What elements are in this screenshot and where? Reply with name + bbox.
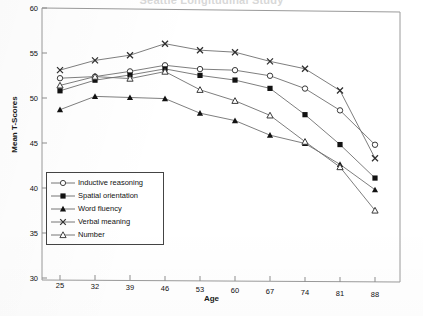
data-point-marker bbox=[232, 77, 237, 82]
legend-label: Number bbox=[76, 230, 105, 239]
data-point-marker bbox=[302, 112, 307, 117]
data-point-marker bbox=[302, 86, 307, 91]
filled-triangle-marker-icon bbox=[50, 203, 76, 215]
open-circle-marker-icon bbox=[50, 177, 76, 189]
series-line bbox=[60, 44, 375, 159]
legend-item-verbal-meaning: Verbal meaning bbox=[50, 215, 159, 228]
chart-figure: Seattle Longitudinal Study Mean T-Scores… bbox=[0, 0, 423, 316]
data-point-marker bbox=[197, 87, 203, 93]
filled-square-marker-icon bbox=[50, 190, 76, 202]
data-point-marker bbox=[197, 73, 202, 78]
data-series bbox=[57, 41, 378, 162]
cross-x-marker-icon bbox=[50, 216, 76, 228]
series-line bbox=[60, 69, 375, 178]
legend-label: Word fluency bbox=[76, 204, 122, 213]
data-point-marker bbox=[267, 73, 272, 78]
data-point-marker bbox=[302, 139, 308, 145]
open-triangle-marker-icon bbox=[50, 229, 76, 241]
data-point-marker bbox=[267, 112, 273, 118]
data-point-marker bbox=[57, 107, 63, 113]
data-point-marker bbox=[372, 142, 377, 147]
plot-area bbox=[0, 0, 423, 316]
data-point-marker bbox=[372, 155, 378, 161]
legend-item-word-fluency: Word fluency bbox=[50, 202, 159, 215]
data-point-marker bbox=[197, 110, 203, 116]
legend-item-number: Number bbox=[50, 228, 159, 241]
data-point-marker bbox=[57, 76, 62, 81]
data-point-marker bbox=[267, 132, 273, 138]
data-point-marker bbox=[267, 86, 272, 91]
legend-item-inductive-reasoning: Inductive reasoning bbox=[50, 176, 159, 189]
plot-top-border bbox=[42, 8, 400, 12]
chart-legend: Inductive reasoning Spatial orientation … bbox=[46, 172, 164, 245]
data-point-marker bbox=[337, 142, 342, 147]
x-axis-line bbox=[42, 280, 400, 282]
legend-label: Spatial orientation bbox=[76, 191, 138, 200]
data-point-marker bbox=[232, 67, 237, 72]
data-point-marker bbox=[372, 187, 378, 193]
data-series bbox=[57, 63, 377, 148]
data-point-marker bbox=[57, 88, 62, 93]
data-point-marker bbox=[372, 175, 377, 180]
legend-item-spatial-orientation: Spatial orientation bbox=[50, 189, 159, 202]
data-point-marker bbox=[337, 108, 342, 113]
data-series bbox=[57, 66, 377, 180]
legend-label: Inductive reasoning bbox=[76, 178, 143, 187]
data-point-marker bbox=[57, 67, 63, 73]
legend-label: Verbal meaning bbox=[76, 217, 130, 226]
data-point-marker bbox=[337, 88, 343, 94]
data-point-marker bbox=[197, 66, 202, 71]
